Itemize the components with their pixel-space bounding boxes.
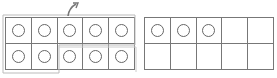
counter-circle-icon: [151, 24, 164, 37]
counter-circle-icon: [63, 50, 76, 63]
counter-circle-icon: [12, 24, 25, 37]
counter-circle-icon: [177, 24, 190, 37]
ten-frame-cell: [32, 18, 58, 44]
counter-circle-icon: [38, 24, 51, 37]
ten-frame-cell: [145, 44, 171, 70]
ten-frame-cell: [145, 18, 171, 44]
ten-frame-cell: [248, 44, 274, 70]
ten-frame-cell: [197, 44, 223, 70]
curved-arrow-icon: [68, 4, 76, 16]
counter-circle-icon: [115, 24, 128, 37]
ten-frame-cell: [109, 44, 135, 70]
ten-frame-cell: [222, 44, 248, 70]
ten-frame-cell: [171, 18, 197, 44]
ten-frame-left: [5, 17, 135, 70]
counter-circle-icon: [63, 24, 76, 37]
ten-frame-grid: [5, 17, 135, 70]
counter-circle-icon: [12, 50, 25, 63]
ten-frame-cell: [171, 44, 197, 70]
ten-frame-cell: [83, 18, 109, 44]
ten-frame-cell: [248, 18, 274, 44]
ten-frame-cell: [6, 18, 32, 44]
counter-circle-icon: [89, 24, 102, 37]
ten-frame-right: [144, 17, 274, 70]
counter-circle-icon: [202, 24, 215, 37]
ten-frame-cell: [6, 44, 32, 70]
counter-circle-icon: [115, 50, 128, 63]
ten-frame-cell: [58, 18, 84, 44]
ten-frame-cell: [32, 44, 58, 70]
ten-frame-cell: [58, 44, 84, 70]
counter-circle-icon: [38, 50, 51, 63]
ten-frame-grid: [144, 17, 274, 70]
ten-frame-cell: [222, 18, 248, 44]
counter-circle-icon: [89, 50, 102, 63]
ten-frame-cell: [197, 18, 223, 44]
ten-frame-cell: [83, 44, 109, 70]
ten-frame-cell: [109, 18, 135, 44]
